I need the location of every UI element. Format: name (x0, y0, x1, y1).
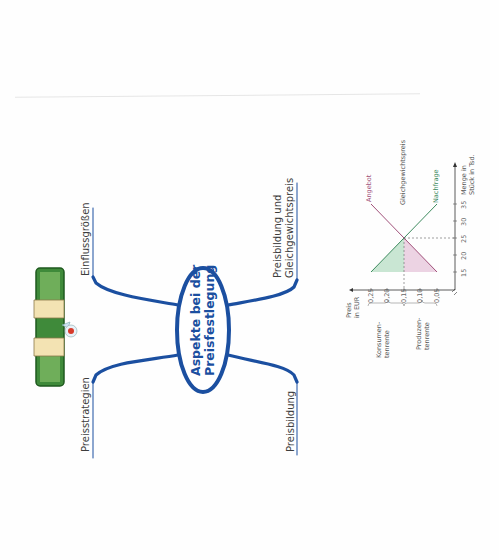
label-nachfrage: Nachfrage (433, 169, 441, 203)
mindmap-center-title: Aspekte bei der Preisfestlegung (189, 284, 217, 376)
hands-pulling-money-icon (34, 268, 77, 386)
y-tick-020: 0,20 (383, 289, 391, 303)
branch-preisbildung-gleichgewichtspreis: Preisbildung und Gleichgewichtspreis (272, 178, 296, 278)
x-axis-title: Menge in Stück in Tsd. (461, 154, 476, 195)
x-tick-35: 35 (460, 201, 468, 209)
mindmap-graphics (0, 0, 499, 560)
x-tick-20: 20 (460, 252, 468, 260)
branch-einflussgroessen: Einflussgrößen (80, 202, 91, 276)
center-title-line-1: Aspekte bei der (189, 284, 203, 376)
x-tick-15: 15 (460, 269, 468, 277)
label-konsumentenrente: Konsumen- tenrente (376, 322, 391, 358)
x-axis-title-line-2: Stück in Tsd. (469, 154, 477, 195)
y-axis-title: Preis in EUR (346, 297, 361, 318)
label-produzentenrente: Produzen- tenrente (416, 318, 431, 350)
y-tick-010: 0,10 (416, 289, 424, 303)
konsumentenrente-line-2: tenrente (384, 322, 392, 358)
center-title-line-2: Preisfestlegung (203, 284, 217, 376)
branch-preisbildung: Preisbildung (285, 391, 296, 452)
label-gleichgewichtspreis: Gleichgewichtspreis (400, 140, 408, 205)
produzentenrente-line-2: tenrente (424, 318, 432, 350)
branch-preisstrategien: Preisstrategien (80, 377, 91, 452)
branch-label-line-2: Gleichgewichtspreis (284, 178, 296, 278)
label-angebot: Angebot (366, 175, 374, 202)
y-axis-title-line-2: in EUR (354, 297, 362, 318)
y-tick-005: 0,05 (433, 289, 441, 303)
x-tick-25: 25 (460, 235, 468, 243)
scanned-page: Aspekte bei der Preisfestlegung Einfluss… (0, 0, 499, 560)
x-tick-30: 30 (460, 218, 468, 226)
y-tick-025: 0,25 (367, 289, 375, 303)
branch-label-line-1: Preisbildung und (272, 178, 284, 278)
y-tick-015: 0,15 (400, 289, 408, 303)
